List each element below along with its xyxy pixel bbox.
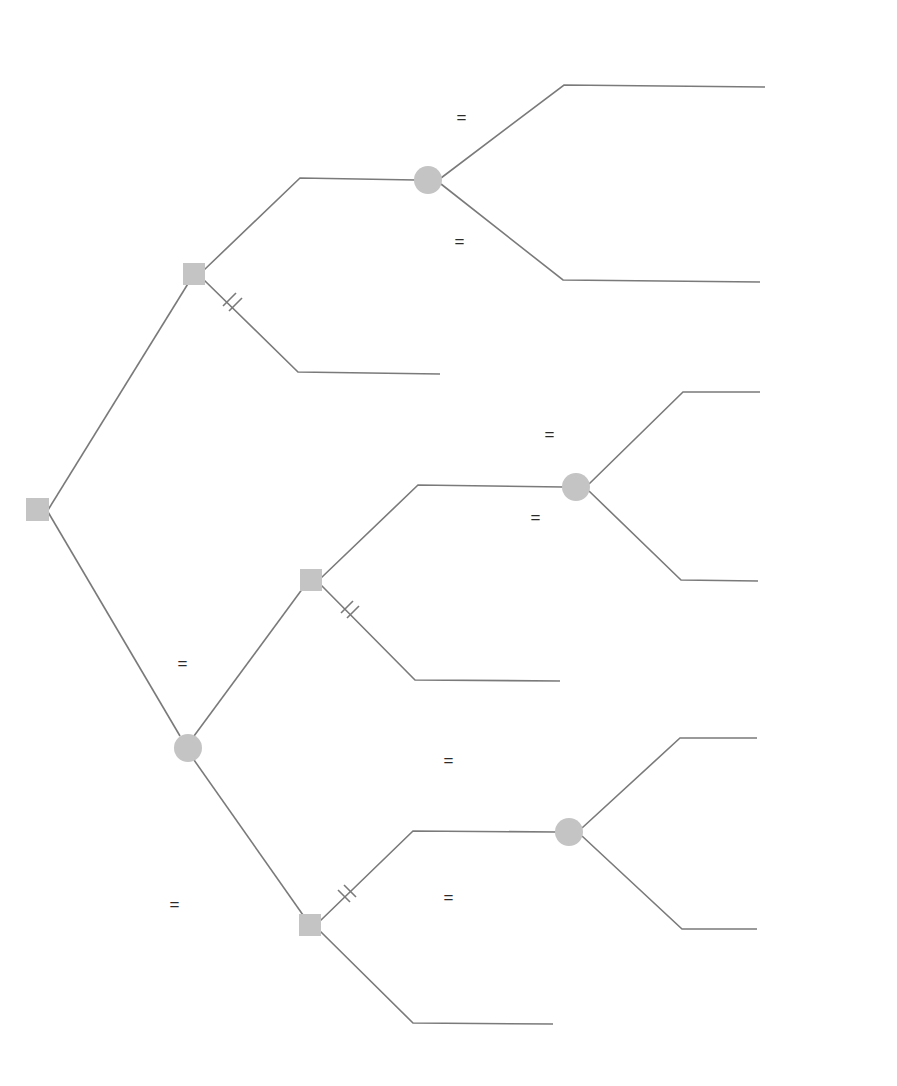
chance-node-pl [555,818,583,846]
branch-ns-donot [204,280,440,374]
prob-pl-low: = [434,886,463,910]
prob-ph-high: = [535,423,564,447]
decision-tree-lines [0,0,897,1086]
label-obtain-survey [34,620,110,623]
decision-node-no-survey [183,263,205,285]
prob-ns-high: = [447,106,476,130]
prob-predict-high: = [168,652,197,676]
branch-pl-low [582,836,757,929]
pruned-markers [223,293,359,902]
decision-node-predict-high [300,569,322,591]
prob-pl-high: = [434,749,463,773]
branch-pl-donot [320,931,553,1024]
branch-pl-high [582,738,757,828]
prob-predict-low: = [160,893,189,917]
branch-ph-donot [321,585,560,681]
branch-predict-low [194,760,303,915]
chance-node-ns [414,166,442,194]
branch-ph-produce [321,485,563,578]
label-no-survey [34,350,104,354]
chance-node-survey [174,734,202,762]
branch-no-survey [48,274,194,510]
branch-ns-high [441,85,765,178]
branch-ns-produce [204,178,416,270]
prob-ph-low: = [521,506,550,530]
chance-node-ph [562,473,590,501]
branch-ph-low [589,491,758,581]
branch-ns-low [441,184,760,282]
branch-predict-high [194,588,303,736]
decision-node-root [26,498,49,521]
decision-node-predict-low [299,914,321,936]
prune-mark-ns-donot-2 [229,298,242,311]
branch-obtain-survey [48,512,180,736]
prune-mark-pl-produce-1 [338,890,350,902]
branch-ph-high [589,392,760,484]
prob-ns-low: = [445,230,474,254]
